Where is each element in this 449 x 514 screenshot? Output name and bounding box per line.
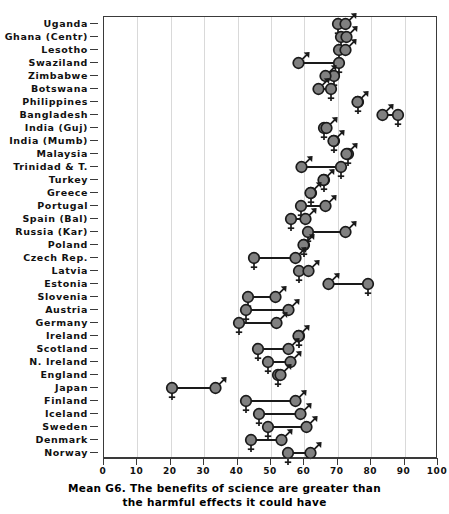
y-axis-tick <box>90 400 98 401</box>
x-axis-tick <box>203 458 204 465</box>
y-axis-label: Czech Rep. <box>23 251 88 262</box>
y-axis-label: Denmark <box>35 433 88 444</box>
x-axis-title-line1: Mean G6. The benefits of science are gre… <box>0 481 449 495</box>
y-axis-tick <box>90 140 98 141</box>
x-axis-tick <box>404 458 405 465</box>
y-axis-label: Philippines <box>22 95 88 106</box>
female-symbol-icon <box>240 432 262 454</box>
y-axis-tick <box>90 335 98 336</box>
gridline <box>371 17 372 457</box>
y-axis-label: N. Ireland <box>29 355 88 366</box>
y-axis-tick <box>90 322 98 323</box>
y-axis-tick <box>90 231 98 232</box>
x-axis-tick-label: 50 <box>263 466 277 476</box>
x-axis-tick <box>170 458 171 465</box>
x-axis-title: Mean G6. The benefits of science are gre… <box>0 481 449 509</box>
y-axis-label: Malaysia <box>36 147 88 158</box>
y-axis-tick <box>90 166 98 167</box>
y-axis-label: Bangladesh <box>19 108 88 119</box>
y-axis-label: Scotland <box>36 342 88 353</box>
y-axis-label: Poland <box>48 238 88 249</box>
y-axis-label: Latvia <box>52 264 88 275</box>
y-axis-tick <box>90 452 98 453</box>
gridline <box>405 17 406 457</box>
y-axis-label: Austria <box>45 303 88 314</box>
plot-area <box>103 16 437 458</box>
y-axis-tick <box>90 426 98 427</box>
y-axis-tick <box>90 36 98 37</box>
x-axis-tick <box>337 458 338 465</box>
y-axis-tick <box>90 127 98 128</box>
male-symbol-icon <box>293 154 315 176</box>
y-axis-tick <box>90 309 98 310</box>
female-symbol-icon <box>161 380 183 402</box>
y-axis-label: Estonia <box>44 277 88 288</box>
y-axis-tick <box>90 270 98 271</box>
y-axis-tick <box>90 439 98 440</box>
y-axis-tick <box>90 179 98 180</box>
y-axis-label: India (Mumb) <box>9 134 88 145</box>
female-symbol-icon <box>357 276 379 298</box>
y-axis-tick <box>90 101 98 102</box>
x-axis-tick-label: 80 <box>363 466 377 476</box>
x-axis-tick <box>303 458 304 465</box>
x-axis-tick-label: 20 <box>163 466 177 476</box>
y-axis-tick <box>90 387 98 388</box>
female-symbol-icon <box>277 445 299 467</box>
x-axis-tick <box>103 458 104 465</box>
y-axis-tick <box>90 205 98 206</box>
gridline <box>238 17 239 457</box>
male-symbol-icon <box>374 102 396 124</box>
y-axis-tick <box>90 413 98 414</box>
x-axis-tick <box>370 458 371 465</box>
y-axis-label: Finland <box>44 394 88 405</box>
y-axis-tick <box>90 257 98 258</box>
y-axis-label: England <box>41 368 88 379</box>
female-symbol-icon <box>228 315 250 337</box>
x-axis-tick-label: 30 <box>196 466 210 476</box>
x-axis-tick-label: 10 <box>130 466 144 476</box>
y-axis-tick <box>90 88 98 89</box>
y-axis-label: Turkey <box>49 173 88 184</box>
y-axis-tick <box>90 114 98 115</box>
male-symbol-icon <box>349 89 371 111</box>
male-symbol-icon <box>272 362 294 384</box>
y-axis-label: Ghana (Centr) <box>5 30 88 41</box>
y-axis-label: Sweden <box>42 420 88 431</box>
y-axis-tick <box>90 23 98 24</box>
y-axis-label: Trinidad & T. <box>13 160 88 171</box>
chart-root: UgandaGhana (Centr)LesothoSwazilandZimba… <box>0 0 449 514</box>
y-axis-tick <box>90 348 98 349</box>
male-symbol-icon <box>317 193 339 215</box>
x-axis-title-line2: the harmful effects it could have <box>0 495 449 509</box>
y-axis-label: Uganda <box>44 17 89 28</box>
x-axis-tick <box>270 458 271 465</box>
y-axis-tick <box>90 374 98 375</box>
x-axis-tick <box>136 458 137 465</box>
y-axis-label: Portugal <box>37 199 88 210</box>
x-axis-tick <box>237 458 238 465</box>
y-axis-tick <box>90 153 98 154</box>
male-symbol-icon <box>298 414 320 436</box>
gridline <box>271 17 272 457</box>
gridline <box>137 17 138 457</box>
y-axis-label: Iceland <box>45 407 88 418</box>
x-axis-tick-label: 100 <box>427 466 447 476</box>
y-axis-label: Slovenia <box>38 290 89 301</box>
male-symbol-icon <box>207 375 229 397</box>
x-axis-tick-label: 0 <box>100 466 107 476</box>
y-axis-label: Germany <box>36 316 88 327</box>
y-axis-label: Botswana <box>31 82 88 93</box>
y-axis-label: Lesotho <box>41 43 88 54</box>
y-axis-tick <box>90 75 98 76</box>
x-axis-tick-label: 40 <box>230 466 244 476</box>
y-axis-label: Japan <box>55 381 88 392</box>
y-axis-tick <box>90 296 98 297</box>
male-symbol-icon <box>320 271 342 293</box>
male-symbol-icon <box>310 76 332 98</box>
y-axis-tick <box>90 192 98 193</box>
y-axis-label: Zimbabwe <box>28 69 88 80</box>
male-symbol-icon <box>300 258 322 280</box>
y-axis-label: Swaziland <box>29 56 88 67</box>
y-axis-label: Norway <box>44 446 88 457</box>
